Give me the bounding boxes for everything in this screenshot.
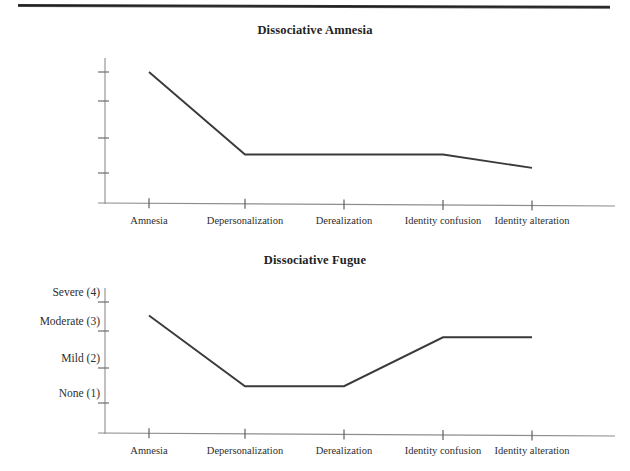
data-series-line	[149, 316, 532, 387]
x-axis-tick-label: Identity confusion	[405, 445, 482, 456]
line-chart-dissociative-amnesia: Severe (4)Moderate (3)Mild (2)None (1)Am…	[0, 18, 630, 238]
figure-dissociative-fugue: Dissociative Fugue Severe (4)Moderate (3…	[0, 248, 630, 468]
x-axis-tick-label: Identity confusion	[405, 215, 482, 226]
running-head	[120, 0, 520, 2]
x-axis-tick-label: Amnesia	[130, 215, 167, 226]
x-axis-tick-label: Amnesia	[130, 445, 167, 456]
line-chart-dissociative-fugue: Severe (4)Moderate (3)Mild (2)None (1)Am…	[0, 248, 630, 468]
scanned-page: Dissociative Amnesia Severe (4)Moderate …	[0, 0, 630, 471]
x-axis-tick-label: Derealization	[316, 215, 373, 226]
chart-canvas	[0, 248, 630, 468]
x-axis-tick-label: Identity alteration	[495, 445, 570, 456]
chart-canvas	[0, 18, 630, 238]
x-axis-line	[98, 203, 615, 206]
x-axis-tick-label: Identity alteration	[495, 215, 570, 226]
data-series-line	[149, 72, 532, 168]
x-axis-tick-label: Depersonalization	[207, 445, 283, 456]
x-axis-tick-label: Derealization	[316, 445, 373, 456]
x-axis-tick-label: Depersonalization	[207, 215, 283, 226]
page-top-rule	[18, 4, 610, 9]
x-axis-line	[98, 433, 615, 436]
figure-dissociative-amnesia: Dissociative Amnesia Severe (4)Moderate …	[0, 18, 630, 238]
